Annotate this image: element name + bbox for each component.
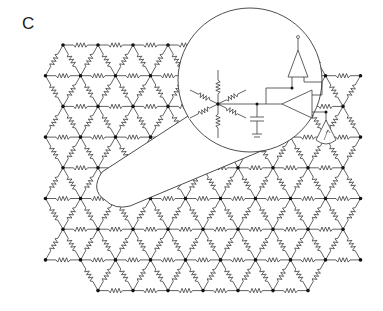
resistor-lattice-diagram (0, 0, 383, 311)
magnifier-callout (97, 8, 322, 207)
